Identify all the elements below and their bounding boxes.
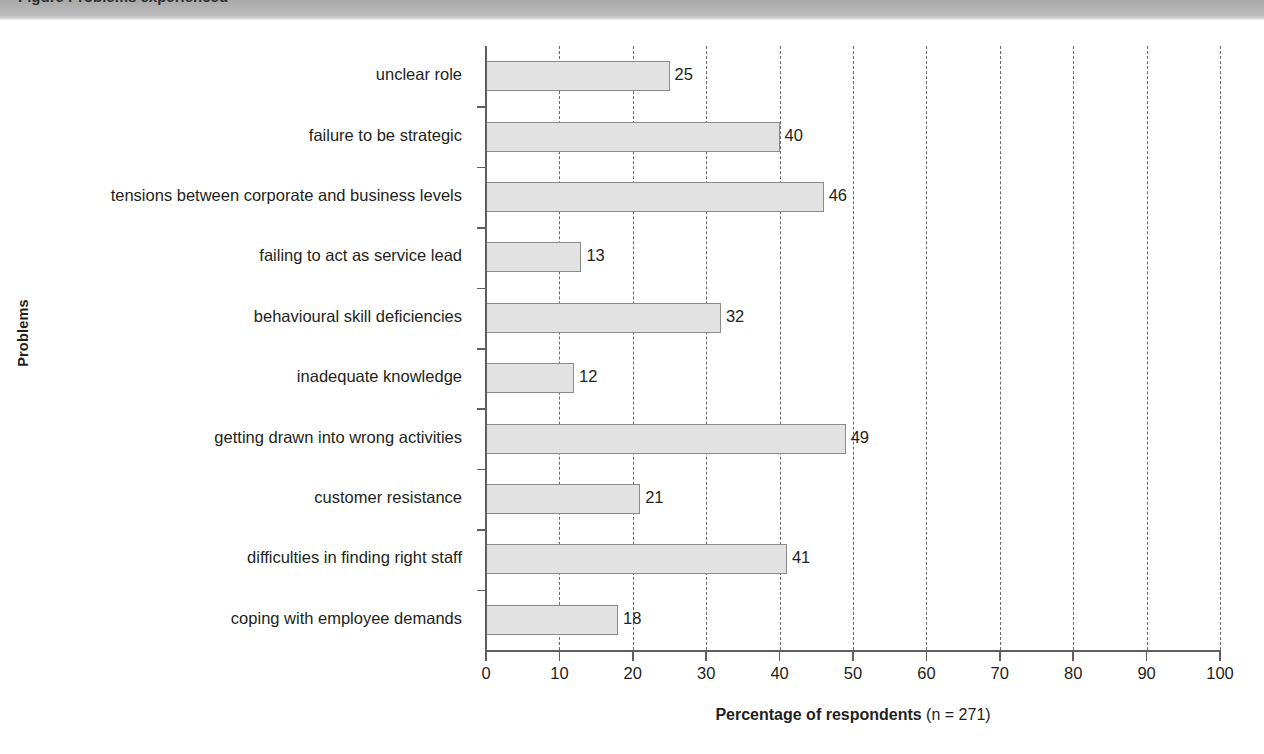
category-label: customer resistance (314, 488, 462, 507)
bar[interactable] (486, 242, 581, 272)
category-tick (477, 348, 486, 350)
x-tick-label-30: 30 (676, 664, 736, 683)
x-tick-label-60: 60 (896, 664, 956, 683)
plot-area: 25404613321249214118 0102030405060708090… (486, 46, 1220, 650)
category-tick (477, 408, 486, 410)
bar[interactable] (486, 424, 846, 454)
category-label: coping with employee demands (231, 609, 462, 628)
x-tick-label-70: 70 (970, 664, 1030, 683)
x-tick-60 (926, 650, 928, 661)
category-label: failure to be strategic (309, 126, 462, 145)
bar[interactable] (486, 122, 780, 152)
gridline-70 (1000, 46, 1001, 650)
bar-value-label: 25 (675, 65, 693, 84)
bar-value-label: 21 (645, 488, 663, 507)
x-tick-label-80: 80 (1043, 664, 1103, 683)
category-label: inadequate knowledge (297, 367, 462, 386)
x-tick-50 (852, 650, 854, 661)
category-axis-labels: unclear rolefailure to be strategictensi… (0, 46, 474, 650)
bar[interactable] (486, 182, 824, 212)
x-tick-90 (1146, 650, 1148, 661)
bar-value-label: 40 (785, 126, 803, 145)
category-label: behavioural skill deficiencies (254, 307, 462, 326)
x-axis-title-note: (n = 271) (922, 706, 991, 723)
category-tick (477, 529, 486, 531)
gridline-50 (853, 46, 854, 650)
x-tick-label-40: 40 (750, 664, 810, 683)
category-label: tensions between corporate and business … (111, 186, 462, 205)
x-tick-40 (779, 650, 781, 661)
gridline-100 (1220, 46, 1221, 650)
x-tick-label-50: 50 (823, 664, 883, 683)
bar-value-label: 32 (726, 307, 744, 326)
gridline-90 (1147, 46, 1148, 650)
x-tick-label-90: 90 (1117, 664, 1177, 683)
category-label: getting drawn into wrong activities (214, 428, 462, 447)
x-tick-100 (1219, 650, 1221, 661)
category-tick (477, 227, 486, 229)
x-tick-80 (1072, 650, 1074, 661)
x-tick-0 (485, 650, 487, 661)
category-tick (477, 590, 486, 592)
x-tick-10 (559, 650, 561, 661)
x-tick-label-10: 10 (529, 664, 589, 683)
gridline-80 (1073, 46, 1074, 650)
x-tick-30 (705, 650, 707, 661)
x-tick-20 (632, 650, 634, 661)
category-tick (477, 167, 486, 169)
bar-value-label: 49 (851, 428, 869, 447)
category-label: difficulties in finding right staff (247, 548, 462, 567)
gridline-60 (926, 46, 927, 650)
x-axis-title-main: Percentage of respondents (715, 706, 921, 723)
bar[interactable] (486, 484, 640, 514)
bar-value-label: 41 (792, 548, 810, 567)
category-tick (477, 288, 486, 290)
bar[interactable] (486, 303, 721, 333)
category-tick (477, 469, 486, 471)
bar[interactable] (486, 544, 787, 574)
x-tick-label-100: 100 (1190, 664, 1250, 683)
category-tick (477, 106, 486, 108)
category-label: unclear role (376, 65, 462, 84)
bar[interactable] (486, 605, 618, 635)
x-tick-label-20: 20 (603, 664, 663, 683)
bar[interactable] (486, 363, 574, 393)
x-tick-label-0: 0 (456, 664, 516, 683)
bar-value-label: 46 (829, 186, 847, 205)
bar[interactable] (486, 61, 670, 91)
bar-value-label: 12 (579, 367, 597, 386)
bar-chart-figure: Problems unclear rolefailure to be strat… (0, 20, 1264, 754)
x-axis-title: Percentage of respondents (n = 271) (486, 706, 1220, 724)
bar-value-label: 13 (586, 246, 604, 265)
figure-caption-text: Figure Problems experienced (18, 0, 228, 8)
category-label: failing to act as service lead (259, 246, 462, 265)
x-tick-70 (999, 650, 1001, 661)
figure-caption-banner: Figure Problems experienced (0, 0, 1264, 20)
bar-value-label: 18 (623, 609, 641, 628)
